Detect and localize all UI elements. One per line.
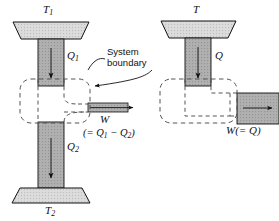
left-cold-reservoir [12,188,90,203]
right-reservoir [161,21,236,38]
system-boundary-label-line2: boundary [107,58,147,69]
right-reservoir-label: T [193,4,199,15]
right-heat-label: Q [215,50,223,61]
left-cold-reservoir-label: T2 [45,205,55,218]
system-boundary-label: System boundary [107,47,147,68]
left-heat-out-duct [38,122,64,188]
left-heat-out-label: Q2 [67,141,79,154]
figure-canvas: T1 Q1 Q2 T2 W (= Q1 − Q2) System boundar… [0,0,279,221]
diagram-vector-layer [0,0,279,221]
right-work-output [237,93,279,124]
left-hot-reservoir [13,22,89,39]
left-work-output [88,103,133,112]
left-heat-in-label: Q1 [67,50,79,63]
left-work-label: W [100,114,109,125]
right-work-label: W(= Q) [226,125,261,136]
left-hot-reservoir-label: T1 [43,4,53,17]
left-work-expression: (= Q1 − Q2) [83,128,135,139]
